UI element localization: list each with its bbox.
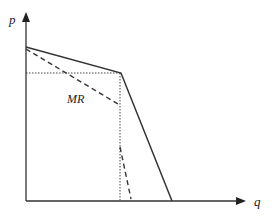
demand-curve (26, 47, 172, 201)
y-axis-label: p (8, 12, 16, 27)
kinked-demand-diagram: p q MR (0, 0, 276, 217)
mr-label: MR (66, 92, 85, 106)
mr-curve-lower (120, 147, 131, 199)
x-axis-label: q (254, 194, 261, 209)
